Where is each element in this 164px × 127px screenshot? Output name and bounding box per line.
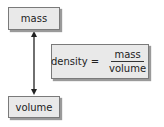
formula-denominator: volume <box>106 62 149 74</box>
formula-lhs: density <box>51 56 88 67</box>
volume-label: volume <box>15 102 52 113</box>
arrowhead-up-icon <box>31 31 37 37</box>
density-formula-box: density = mass volume <box>51 44 149 79</box>
arrowhead-down-icon <box>31 89 37 95</box>
mass-label: mass <box>21 13 47 24</box>
mass-node: mass <box>8 7 60 30</box>
formula-numerator: mass <box>111 49 143 62</box>
formula-fraction: mass volume <box>106 49 149 74</box>
volume-node: volume <box>8 96 60 118</box>
formula-equals: = <box>91 56 99 67</box>
